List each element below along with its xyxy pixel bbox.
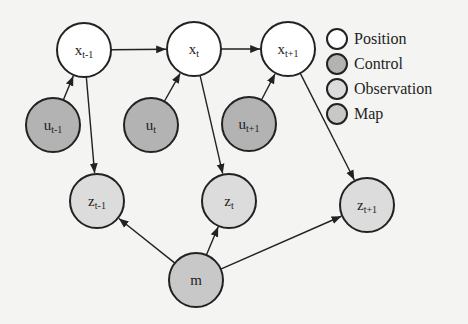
legend-label: Control [354, 55, 403, 72]
legend-item-position: Position [327, 29, 406, 49]
node-u_curr: ut [124, 98, 178, 152]
edge-u_curr-to-x_curr [164, 73, 180, 101]
legend-label: Position [354, 30, 406, 47]
edge-m-to-z_curr [206, 227, 218, 255]
node-z_next: zt+1 [340, 178, 394, 232]
legend-swatch [327, 79, 347, 99]
node-x_prev: xt-1 [57, 23, 111, 77]
slam-graphical-model: xt-1xtxt+1ut-1utut+1zt-1ztzt+1m Position… [0, 0, 468, 324]
edge-x_prev-to-x_curr [111, 49, 166, 50]
edge-m-to-z_prev [119, 218, 175, 263]
legend-swatch [327, 54, 347, 74]
legend: PositionControlObservationMap [327, 29, 432, 124]
edge-x_prev-to-z_prev [86, 77, 94, 173]
node-z_prev: zt-1 [70, 174, 124, 228]
legend-item-observation: Observation [327, 79, 432, 99]
node-u_prev: ut-1 [26, 98, 80, 152]
legend-swatch [327, 29, 347, 49]
legend-item-map: Map [327, 104, 383, 124]
edges [63, 49, 354, 269]
edge-u_prev-to-x_prev [63, 76, 73, 100]
legend-label: Observation [354, 80, 432, 97]
edge-x_curr-to-z_curr [200, 75, 223, 173]
node-z_curr: zt [202, 174, 256, 228]
legend-swatch [327, 104, 347, 124]
node-x_next: xt+1 [261, 22, 315, 76]
legend-label: Map [354, 105, 383, 123]
node-m: m [169, 253, 223, 307]
legend-item-control: Control [327, 54, 403, 74]
node-label: m [190, 272, 202, 288]
node-x_curr: xt [167, 22, 221, 76]
node-u_next: ut+1 [222, 97, 276, 151]
edge-u_next-to-x_next [261, 74, 275, 100]
